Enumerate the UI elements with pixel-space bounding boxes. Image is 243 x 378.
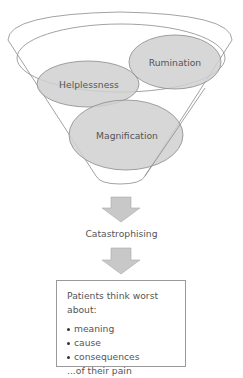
label-rumination: Rumination (149, 57, 202, 68)
list-item: meaning (67, 322, 185, 336)
list-item: cause (67, 336, 185, 350)
list-item: consequences (67, 350, 185, 364)
outcome-heading: Patients think worst about: (67, 289, 185, 317)
catastrophising-label: Catastrophising (0, 228, 243, 239)
arrow-down-icon (102, 248, 140, 274)
label-magnification: Magnification (96, 130, 158, 141)
label-helplessness: Helplessness (59, 79, 119, 90)
outcome-footer: ...of their pain (67, 364, 185, 378)
outcome-list: meaning cause consequences (67, 322, 185, 364)
arrow-down-icon (102, 197, 140, 222)
outcome-box: Patients think worst about: meaning caus… (56, 280, 186, 367)
